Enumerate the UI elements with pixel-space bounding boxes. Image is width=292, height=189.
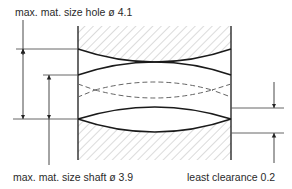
hole-hatched-region	[78, 26, 231, 62]
shaft-size-label: max. mat. size shaft ø 3.9	[13, 172, 133, 183]
dashed-centerline-lens	[78, 82, 231, 98]
hole-size-label: max. mat. size hole ø 4.1	[15, 7, 132, 18]
fit-tolerance-diagram	[0, 0, 292, 189]
shaft-upper-curve	[78, 107, 231, 119]
hole-lower-curve	[78, 62, 231, 75]
clearance-label: least clearance 0.2	[187, 172, 275, 183]
